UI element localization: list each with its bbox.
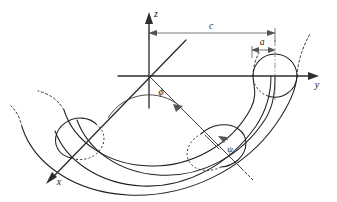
z-axis-label: z (153, 8, 158, 19)
axes-group (46, 12, 319, 184)
torus-tube-ridge-curve (77, 76, 275, 175)
dimension-a-label: a (260, 37, 265, 47)
torus-hidden-edges-group (11, 34, 310, 127)
z-axis-arrowhead (145, 12, 153, 24)
right-tube-cross-section-group (253, 40, 297, 100)
phi-angle-label: ϕ (158, 86, 163, 97)
torus-hidden-edge-left-upper (38, 91, 64, 110)
psi-angle-label: ψ (227, 144, 233, 154)
torus-hidden-edge-left-lower (11, 106, 22, 127)
psi-tube-ellipse-lower (221, 160, 238, 167)
left-tube-cross-section-group (56, 118, 104, 159)
y-axis-label: y (314, 79, 320, 90)
dimension-c-label: c (209, 21, 214, 31)
tube-ray-extension (242, 169, 254, 181)
x-axis-label: x (56, 176, 62, 187)
right-tube-circle-hidden (253, 76, 268, 96)
psi-tube-ellipse-visible (201, 125, 246, 160)
x-axis-line (54, 40, 186, 176)
toroidal-coordinate-diagram: z y x c a ϕ ψ (0, 0, 337, 202)
psi-radius-line (205, 135, 219, 149)
torus-hidden-edge-right-upper (297, 34, 310, 76)
figure-container: z y x c a ϕ ψ (0, 0, 337, 202)
phi-angle-arc (108, 95, 181, 118)
dimension-a-group (251, 46, 276, 58)
